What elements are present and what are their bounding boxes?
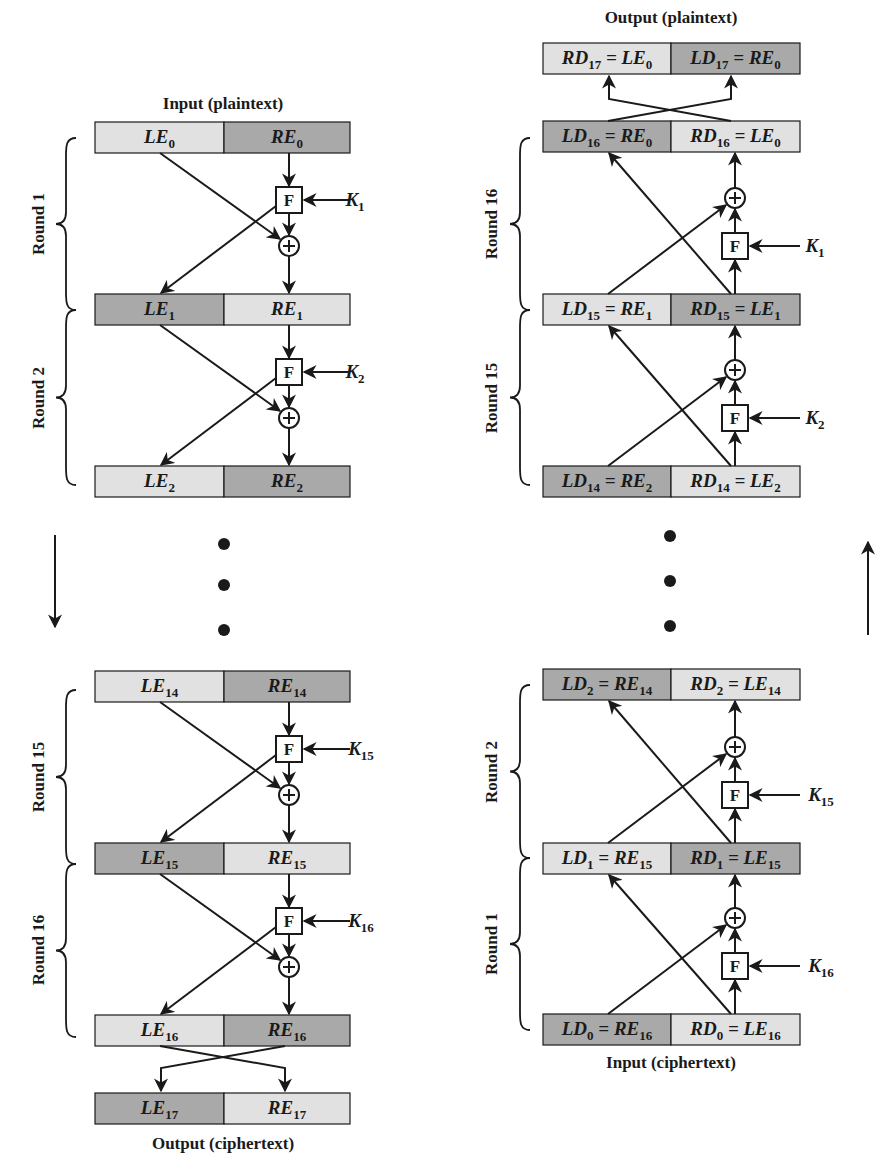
round-function-f-box: F	[722, 782, 748, 808]
f-label: F	[284, 363, 294, 382]
round-function-f-box: F	[276, 908, 302, 934]
ellipsis-dot	[218, 538, 230, 550]
subkey-label: K1	[804, 235, 824, 260]
subkey-label: K15	[807, 784, 834, 809]
ellipsis-dot	[664, 530, 676, 542]
round-brace	[56, 138, 76, 310]
ellipsis-dot	[218, 624, 230, 636]
round-brace	[510, 138, 530, 310]
output-plaintext-caption: Output (plaintext)	[605, 8, 738, 27]
subkey-label: K2	[344, 361, 364, 386]
enc-block-row-0: LE0RE0	[95, 122, 350, 153]
round-label: Round 2	[29, 367, 48, 429]
left-half-to-xor	[608, 377, 726, 466]
subkey-label: K16	[347, 910, 374, 935]
f-label: F	[730, 957, 740, 976]
final-swap-line	[161, 1046, 285, 1091]
round-function-f-box: F	[722, 233, 748, 259]
subkey-label: K15	[347, 738, 374, 763]
xor-icon	[279, 236, 299, 256]
enc-block-row-6: LE17RE17	[95, 1093, 350, 1124]
dec-block-row-5: LD1 = RE15RD1 = LE15	[543, 843, 800, 874]
left-half-to-xor	[608, 205, 726, 294]
feistel-encryption-decryption-diagram: Input (plaintext)LE0RE0LE1RE1LE2RE2LE14R…	[0, 0, 892, 1176]
dec-block-row-2: LD15 = RE1RD15 = LE1	[543, 294, 800, 325]
f-label: F	[730, 786, 740, 805]
round-brace	[56, 690, 76, 864]
round-brace	[56, 310, 76, 485]
ellipsis-dot	[664, 620, 676, 632]
round-brace	[510, 310, 530, 485]
round-brace	[56, 864, 76, 1037]
dec-block-row-4: LD2 = RE14RD2 = LE14	[543, 669, 800, 700]
right-half-to-left	[609, 701, 731, 843]
left-half-to-xor	[160, 702, 280, 788]
round-label: Round 1	[482, 913, 501, 975]
f-label: F	[730, 409, 740, 428]
ellipsis-section	[55, 530, 868, 636]
enc-block-row-4: LE15RE15	[95, 843, 350, 874]
round-function-f-box: F	[276, 187, 302, 213]
ellipsis-dot	[218, 579, 230, 591]
input-plaintext-caption: Input (plaintext)	[163, 94, 283, 113]
xor-icon	[279, 408, 299, 428]
final-swap-line	[608, 76, 731, 121]
xor-icon	[725, 737, 745, 757]
subkey-label: K16	[807, 955, 834, 980]
round-function-f-box: F	[276, 736, 302, 762]
xor-icon	[725, 908, 745, 928]
right-half-to-left	[609, 326, 731, 466]
right-half-to-left	[161, 927, 276, 1014]
xor-icon	[279, 957, 299, 977]
round-brace	[510, 685, 530, 858]
left-half-to-xor	[160, 874, 280, 960]
input-ciphertext-caption: Input (ciphertext)	[606, 1053, 736, 1072]
dec-block-row-6: LD0 = RE16RD0 = LE16	[543, 1014, 800, 1045]
round-label: Round 2	[482, 741, 501, 803]
enc-block-row-2: LE2RE2	[95, 466, 350, 497]
ellipsis-dot	[664, 575, 676, 587]
right-half-to-left	[609, 153, 731, 294]
decryption-panel: Output (plaintext)RD17 = LE0LD17 = RE0LD…	[482, 8, 834, 1072]
left-half-to-xor	[160, 325, 280, 411]
round-function-f-box: F	[722, 953, 748, 979]
dec-block-row-1: LD16 = RE0RD16 = LE0	[543, 121, 800, 152]
round-function-f-box: F	[722, 405, 748, 431]
f-label: F	[284, 740, 294, 759]
final-swap-line	[609, 76, 731, 121]
f-label: F	[284, 191, 294, 210]
subkey-label: K1	[344, 189, 364, 214]
xor-icon	[279, 785, 299, 805]
xor-icon	[725, 188, 745, 208]
subkey-label: K2	[804, 407, 824, 432]
final-swap-line	[160, 1046, 285, 1091]
output-ciphertext-caption: Output (ciphertext)	[152, 1134, 294, 1153]
round-function-f-box: F	[276, 359, 302, 385]
dec-block-row-3: LD14 = RE2RD14 = LE2	[543, 466, 800, 497]
round-brace	[510, 858, 530, 1030]
left-half-to-xor	[608, 925, 726, 1014]
round-label: Round 16	[482, 189, 501, 259]
round-label: Round 15	[29, 742, 48, 812]
round-label: Round 1	[29, 193, 48, 255]
f-label: F	[284, 912, 294, 931]
left-half-to-xor	[160, 153, 280, 239]
enc-block-row-5: LE16RE16	[95, 1015, 350, 1046]
dec-block-row-0: RD17 = LE0LD17 = RE0	[543, 43, 800, 74]
right-half-to-left	[161, 378, 276, 465]
round-label: Round 15	[482, 363, 501, 433]
right-half-to-left	[161, 206, 276, 293]
xor-icon	[725, 360, 745, 380]
round-label: Round 16	[29, 915, 48, 985]
encryption-panel: Input (plaintext)LE0RE0LE1RE1LE2RE2LE14R…	[29, 94, 374, 1153]
enc-block-row-3: LE14RE14	[95, 671, 350, 702]
f-label: F	[730, 237, 740, 256]
enc-block-row-1: LE1RE1	[95, 294, 350, 325]
right-half-to-left	[161, 755, 276, 842]
right-half-to-left	[609, 875, 731, 1014]
